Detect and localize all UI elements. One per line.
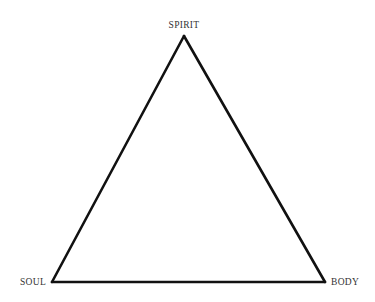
vertex-label-spirit: SPIRIT: [169, 20, 200, 30]
edge-spirit-soul: [52, 36, 184, 282]
triangle-diagram: SPIRIT SOUL BODY: [0, 0, 375, 302]
edge-spirit-body: [184, 36, 325, 282]
vertex-label-body: BODY: [331, 277, 359, 287]
vertex-label-soul: SOUL: [20, 277, 46, 287]
